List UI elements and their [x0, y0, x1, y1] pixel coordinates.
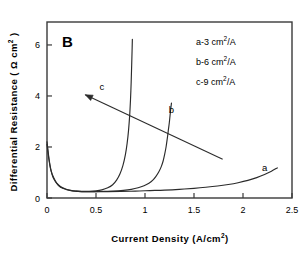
curve-label-b: b: [169, 104, 174, 115]
axis-tick-labels: 00.511.522.50246: [35, 40, 298, 215]
chart-canvas: 00.511.522.50246 abc B a-3 cm2/Ab-6 cm2/…: [0, 0, 307, 255]
legend-entry-prefix: c-9 cm: [196, 77, 223, 87]
legend: a-3 cm2/Ab-6 cm2/Ac-9 cm2/A: [196, 35, 236, 87]
x-tick-label: 0: [44, 205, 49, 215]
y-axis-title: Differential Resistance ( Ω cm2 ): [7, 32, 19, 191]
trend-arrow-head: [85, 95, 93, 101]
legend-entry-suffix: /A: [227, 57, 236, 67]
x-axis-title-tail: ): [225, 233, 229, 244]
y-axis-title-unit: cm: [8, 43, 19, 61]
curve-c: [47, 39, 132, 191]
legend-entry: c-9 cm2/A: [196, 75, 235, 87]
x-tick-label: 1: [142, 205, 147, 215]
chart-annotations: abc: [85, 81, 268, 174]
svg-text:Differential Resistance ( Ω cm: Differential Resistance ( Ω cm2 ): [7, 32, 19, 191]
x-axis-title: Current Density (A/cm2): [111, 232, 228, 244]
y-tick-label: 6: [35, 40, 40, 50]
curve-b: [76, 103, 171, 192]
x-tick-label: 2.5: [286, 205, 299, 215]
x-tick-label: 2: [240, 205, 245, 215]
x-tick-label: 1.5: [188, 205, 201, 215]
curve-label-c: c: [100, 81, 105, 92]
curve-a: [47, 142, 277, 192]
legend-entry: b-6 cm2/A: [196, 55, 236, 67]
x-tick-label: 0.5: [90, 205, 103, 215]
y-axis-title-text: Differential Resistance (: [8, 69, 19, 192]
figure-panel-b: 00.511.522.50246 abc B a-3 cm2/Ab-6 cm2/…: [0, 0, 307, 255]
y-tick-label: 0: [35, 194, 40, 204]
panel-label: B: [62, 33, 73, 50]
curve-label-a: a: [262, 162, 268, 173]
x-axis-title-text: Current Density (A/cm: [111, 233, 221, 244]
y-tick-label: 4: [35, 91, 40, 101]
legend-entry-prefix: a-3 cm: [196, 37, 224, 47]
legend-entry-prefix: b-6 cm: [196, 57, 224, 67]
y-tick-label: 2: [35, 142, 40, 152]
legend-entry-suffix: /A: [227, 37, 236, 47]
legend-entry: a-3 cm2/A: [196, 35, 236, 47]
y-axis-title-tail: ): [8, 32, 19, 39]
trend-arrow-shaft: [85, 95, 222, 160]
y-axis-title-omega: Ω: [8, 61, 19, 69]
svg-text:Current Density (A/cm2): Current Density (A/cm2): [111, 232, 228, 244]
legend-entry-suffix: /A: [227, 77, 236, 87]
data-curves: [47, 39, 277, 191]
